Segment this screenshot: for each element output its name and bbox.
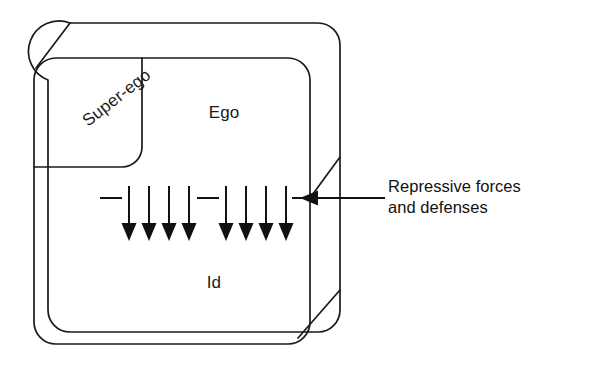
repression-arrow-group-left: [122, 186, 197, 241]
callout-arrow-head: [300, 191, 318, 206]
gusset-bottom-right: [298, 290, 340, 338]
back-panel-outline: [28, 21, 340, 332]
arrow-head: [259, 223, 274, 241]
arrow-head: [162, 223, 177, 241]
gusset-top-left: [36, 23, 70, 68]
repression-arrow: [259, 186, 274, 241]
arrow-head: [142, 223, 157, 241]
arrow-head: [279, 223, 294, 241]
ego-label: Ego: [209, 103, 240, 122]
superego-label: Super-ego: [79, 65, 155, 130]
repression-arrow: [239, 186, 254, 241]
repression-arrow: [162, 186, 177, 241]
repressive-forces-callout-label: Repressive forces and defenses: [388, 176, 598, 218]
arrow-head: [182, 223, 197, 241]
arrow-head: [122, 223, 137, 241]
structural-model-figure: Super-ego Ego Id Repressive forces and d…: [0, 0, 602, 367]
id-label: Id: [207, 273, 221, 292]
gusset-right-upper: [310, 157, 340, 198]
arrow-head: [239, 223, 254, 241]
repression-arrow-group-right: [219, 186, 294, 241]
repression-arrow: [279, 186, 294, 241]
repression-arrow: [219, 186, 234, 241]
arrow-head: [219, 223, 234, 241]
repression-arrow: [142, 186, 157, 241]
repression-arrow: [122, 186, 137, 241]
front-panel-outline: [34, 58, 310, 344]
repression-arrow: [182, 186, 197, 241]
